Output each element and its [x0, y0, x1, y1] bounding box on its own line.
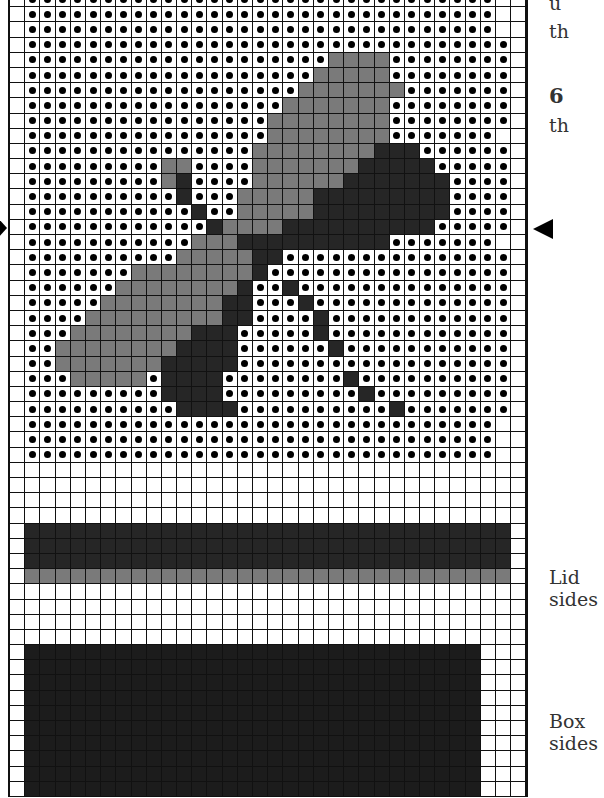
stitch-cell-dot: [314, 417, 329, 432]
stitch-cell-dot: [132, 387, 147, 402]
stitch-cell-dot: [40, 68, 55, 83]
stitch-cell-dot: [283, 53, 298, 68]
stitch-cell-dark: [147, 554, 162, 569]
stitch-cell-empty: [375, 463, 390, 478]
stitch-cell-dot: [147, 144, 162, 159]
stitch-cell-mid-gray: [147, 569, 162, 584]
stitch-cell-dark: [299, 296, 314, 311]
stitch-cell-box-dark: [207, 691, 222, 706]
stitch-cell-dot: [207, 98, 222, 113]
stitch-cell-mid-gray: [116, 569, 131, 584]
stitch-cell-box-dark: [25, 736, 40, 751]
stitch-cell-dot: [314, 250, 329, 265]
stitch-cell-dot: [223, 417, 238, 432]
stitch-cell-dot: [162, 448, 177, 463]
stitch-cell-empty: [466, 630, 481, 645]
stitch-cell-empty: [223, 508, 238, 523]
stitch-cell-empty: [314, 600, 329, 615]
stitch-cell-dot: [375, 38, 390, 53]
stitch-cell-dot: [405, 98, 420, 113]
stitch-cell-box-dark: [329, 736, 344, 751]
stitch-cell-box-dark: [207, 751, 222, 766]
stitch-cell-box-dark: [466, 782, 481, 797]
stitch-cell-dark: [359, 235, 374, 250]
stitch-cell-empty: [10, 311, 25, 326]
stitch-cell-empty: [511, 508, 526, 523]
stitch-cell-empty: [162, 508, 177, 523]
stitch-cell-dot: [147, 387, 162, 402]
stitch-cell-dot: [253, 326, 268, 341]
stitch-cell-box-dark: [359, 660, 374, 675]
stitch-cell-mid-gray: [314, 68, 329, 83]
stitch-cell-empty: [25, 478, 40, 493]
stitch-cell-empty: [238, 600, 253, 615]
stitch-cell-box-dark: [466, 660, 481, 675]
stitch-cell-empty: [253, 600, 268, 615]
stitch-cell-dark: [405, 174, 420, 189]
stitch-cell-dot: [162, 114, 177, 129]
stitch-cell-dot: [299, 432, 314, 447]
stitch-cell-dot: [56, 296, 71, 311]
stitch-cell-dot: [207, 7, 222, 22]
stitch-cell-empty: [481, 660, 496, 675]
stitch-cell-mid-gray: [299, 83, 314, 98]
stitch-cell-dot: [162, 53, 177, 68]
stitch-cell-dark: [238, 524, 253, 539]
stitch-cell-dot: [390, 0, 405, 7]
stitch-cell-mid-gray: [147, 311, 162, 326]
stitch-cell-box-dark: [147, 660, 162, 675]
stitch-cell-dot: [450, 68, 465, 83]
stitch-cell-dot: [268, 265, 283, 280]
stitch-cell-dot: [435, 235, 450, 250]
stitch-cell-empty: [466, 493, 481, 508]
stitch-cell-empty: [192, 630, 207, 645]
stitch-cell-empty: [375, 584, 390, 599]
stitch-cell-dot: [25, 159, 40, 174]
stitch-cell-dark: [314, 220, 329, 235]
stitch-cell-dot: [435, 432, 450, 447]
stitch-cell-box-dark: [207, 675, 222, 690]
stitch-cell-dot: [56, 144, 71, 159]
stitch-cell-box-dark: [207, 767, 222, 782]
stitch-cell-mid-gray: [283, 189, 298, 204]
center-arrow-right-icon: [533, 219, 553, 239]
stitch-cell-dark: [223, 402, 238, 417]
stitch-cell-empty: [329, 493, 344, 508]
stitch-cell-dot: [86, 98, 101, 113]
stitch-cell-dot: [481, 114, 496, 129]
stitch-cell-dot: [450, 189, 465, 204]
stitch-cell-empty: [268, 630, 283, 645]
stitch-cell-box-dark: [253, 736, 268, 751]
stitch-cell-empty: [71, 508, 86, 523]
stitch-cell-empty: [329, 478, 344, 493]
stitch-cell-empty: [511, 600, 526, 615]
stitch-cell-dark: [223, 311, 238, 326]
stitch-cell-empty: [390, 463, 405, 478]
stitch-cell-mid-gray: [101, 311, 116, 326]
stitch-cell-box-dark: [40, 751, 55, 766]
stitch-cell-dot: [40, 174, 55, 189]
stitch-cell-dot: [314, 432, 329, 447]
stitch-cell-dark: [359, 387, 374, 402]
stitch-cell-box-dark: [71, 751, 86, 766]
stitch-cell-dot: [466, 357, 481, 372]
stitch-cell-empty: [10, 432, 25, 447]
stitch-cell-dark: [420, 539, 435, 554]
stitch-cell-dot: [450, 341, 465, 356]
stitch-cell-mid-gray: [207, 250, 222, 265]
stitch-cell-dot: [86, 402, 101, 417]
stitch-cell-dark: [481, 539, 496, 554]
stitch-cell-empty: [56, 630, 71, 645]
instruction-text-fragment: th: [549, 20, 569, 42]
stitch-cell-dot: [86, 265, 101, 280]
stitch-cell-box-dark: [420, 767, 435, 782]
stitch-cell-empty: [10, 220, 25, 235]
stitch-cell-dark: [329, 341, 344, 356]
stitch-cell-empty: [496, 493, 511, 508]
stitch-cell-mid-gray: [359, 114, 374, 129]
stitch-cell-dot: [253, 417, 268, 432]
stitch-cell-dot: [56, 205, 71, 220]
stitch-cell-dot: [207, 114, 222, 129]
stitch-cell-dot: [192, 220, 207, 235]
stitch-cell-empty: [299, 463, 314, 478]
